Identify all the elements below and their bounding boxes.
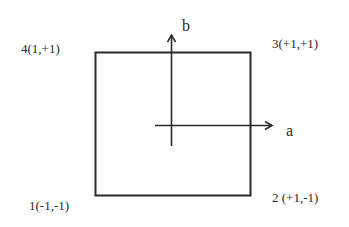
corner-label-1: 1(-1,-1) <box>29 198 69 213</box>
factorial-square-diagram: b a 4(1,+1) 3(+1,+1) 1(-1,-1) 2 (+1,-1) <box>0 0 349 227</box>
design-square <box>96 53 251 196</box>
corner-label-2: 2 (+1,-1) <box>272 190 318 205</box>
a-axis-label: a <box>286 122 293 139</box>
corner-label-4: 4(1,+1) <box>21 41 60 56</box>
corner-label-3: 3(+1,+1) <box>272 36 318 51</box>
b-axis-label: b <box>182 17 190 34</box>
